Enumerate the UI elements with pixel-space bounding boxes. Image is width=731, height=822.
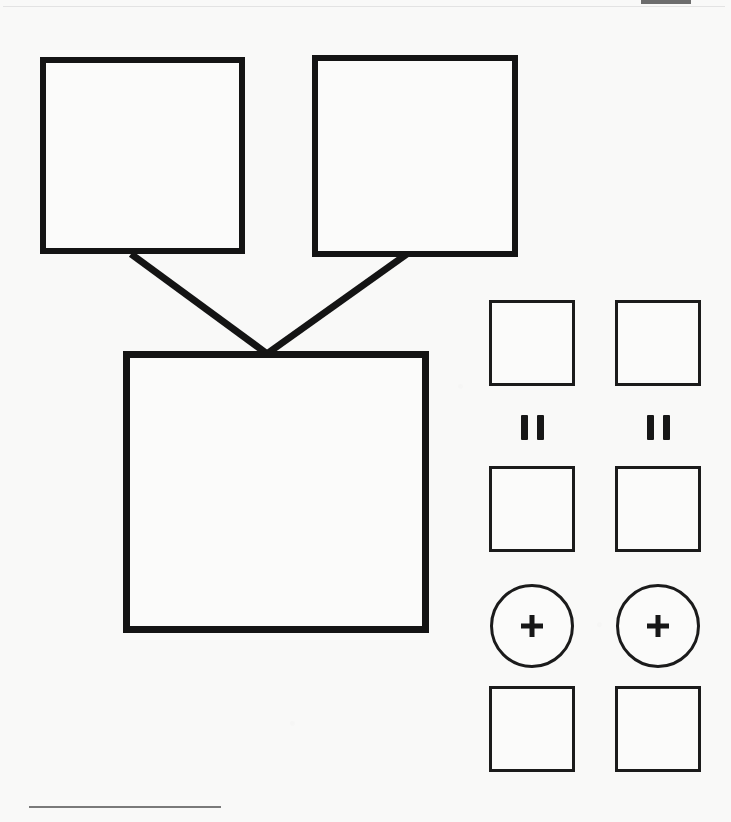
node-box-top-left[interactable] [40, 57, 245, 254]
palette-square-2a[interactable] [489, 466, 575, 552]
scan-top-rule [3, 6, 725, 7]
pause-bar-icon [521, 415, 528, 440]
pause-mark-a[interactable] [489, 412, 575, 442]
palette-square-3b[interactable] [615, 686, 701, 772]
plus-circle-cell-a[interactable] [489, 585, 575, 667]
palette-row-marks [489, 412, 701, 442]
node-box-bottom-label [130, 358, 131, 359]
pause-bar-icon [537, 415, 544, 440]
palette-row-squares-3 [489, 686, 701, 776]
palette-row-squares-2 [489, 466, 701, 556]
palette-square-1b[interactable] [615, 300, 701, 386]
scan-corner-marker [641, 0, 691, 4]
palette-square-1a[interactable] [489, 300, 575, 386]
node-box-top-right[interactable] [312, 55, 518, 257]
plus-vertical-stroke [656, 615, 661, 637]
plus-circle-icon [490, 584, 574, 668]
pause-bar-icon [647, 415, 654, 440]
node-box-bottom[interactable] [123, 351, 429, 633]
palette-square-2b[interactable] [615, 466, 701, 552]
palette-row-circles [489, 585, 701, 667]
plus-vertical-stroke [530, 615, 535, 637]
node-box-top-left-label [46, 63, 47, 64]
node-box-top-right-label [318, 61, 319, 62]
connector-top-right-to-bottom [268, 254, 407, 353]
footer-rule [29, 806, 221, 808]
shape-palette [489, 300, 701, 782]
pause-mark-b[interactable] [615, 412, 701, 442]
plus-circle-icon [616, 584, 700, 668]
palette-square-3a[interactable] [489, 686, 575, 772]
palette-row-squares-1 [489, 300, 701, 390]
connector-top-left-to-bottom [131, 254, 266, 353]
plus-circle-cell-b[interactable] [615, 585, 701, 667]
pause-bar-icon [663, 415, 670, 440]
document-page [0, 0, 731, 822]
